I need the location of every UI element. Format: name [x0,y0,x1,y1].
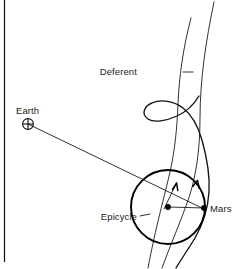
earth-label: Earth [16,105,39,116]
mars-label: Mars [210,203,232,214]
epicycle-label: Epicycle [101,211,137,222]
mars-dot [201,205,207,211]
deferent-outer-arc [162,2,214,268]
epicycle-center-dot [165,204,171,210]
epicycle-radius-line [168,207,204,208]
earth-to-mars-sight-line [28,124,204,209]
epicycle-leader-line [140,214,150,216]
diagram-canvas: Earth Deferent Epicycle Mars [0,0,243,269]
epicycle-diagram-figure: Earth Deferent Epicycle Mars [0,0,243,269]
deferent-inner-arc [148,18,191,268]
earth-glyph-circle-cross-icon [23,119,34,130]
deferent-label: Deferent [100,66,137,77]
